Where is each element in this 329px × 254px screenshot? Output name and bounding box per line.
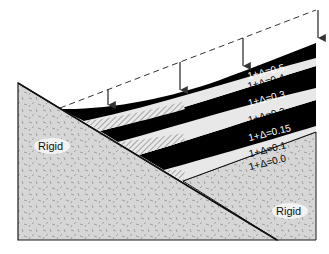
subsidence-diagram: 1+Δ=0.5 1+Δ=0.4 1+Δ=0.3 1+Δ=0.2 1+Δ=0.15… xyxy=(0,0,329,254)
right-rigid-label: Rigid xyxy=(276,205,301,217)
left-rigid-label: Rigid xyxy=(38,140,63,152)
